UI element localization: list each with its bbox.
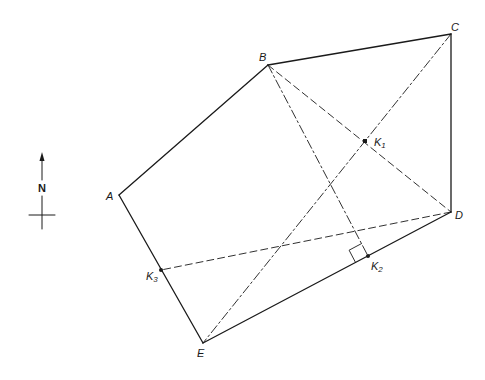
line-dk3-dashed [161,212,451,270]
vertex-label-b: B [259,51,266,63]
k1-subscript: 1 [381,141,385,150]
north-label: N [38,182,46,194]
k2-subscript: 2 [377,265,383,274]
north-arrow-head-icon [40,152,45,161]
edge-bc [268,34,451,65]
vertex-label-c: C [451,21,459,33]
k1-marker [363,139,367,143]
diagram-canvas: N A B C D E K1 K2 K3 [0,0,485,380]
point-label-k2: K2 [371,260,383,274]
point-label-k1: K1 [374,136,386,150]
vertex-label-a: A [105,190,113,202]
line-bk2-dashdot [268,65,368,256]
edge-de [203,212,451,343]
line-bd-dashed [268,65,451,212]
line-ce-dashdot [203,34,451,343]
k3-subscript: 3 [153,275,158,284]
k3-marker [159,268,163,272]
vertex-label-d: D [455,209,463,221]
edge-ab [119,65,268,195]
k2-marker [366,254,370,258]
point-label-k3: K3 [146,270,158,284]
vertex-label-e: E [197,347,205,359]
